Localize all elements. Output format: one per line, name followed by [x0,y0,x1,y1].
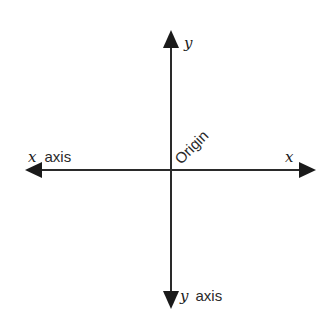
x-axis-left-var: x [28,148,37,166]
x-axis-left-label: x axis [28,148,71,166]
y-axis-bottom-var: y [179,287,189,305]
y-axis-bottom-label: y axis [179,287,222,305]
y-axis-bottom-text: axis [195,287,222,304]
x-right-label: x [285,148,294,166]
x-axis-right-arrow-icon [299,162,316,178]
y-axis-down-arrow-icon [163,291,179,309]
origin-label: Origin [171,127,211,167]
y-top-label: y [183,34,193,52]
coordinate-plane: y x x axis y axis Origin [0,0,336,331]
x-axis-left-text: axis [44,148,71,165]
y-axis-up-arrow-icon [163,30,179,48]
